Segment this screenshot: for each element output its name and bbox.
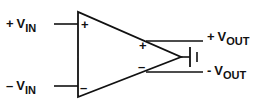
pin-plus-output: + bbox=[139, 38, 147, 53]
label-positive-vin: +VIN bbox=[6, 16, 36, 34]
label-negative-vin: –VIN bbox=[6, 78, 36, 96]
label-positive-vout: +VOUT bbox=[207, 29, 250, 47]
pin-minus-output: – bbox=[138, 59, 145, 74]
pin-plus-input: + bbox=[81, 17, 89, 32]
diagram-canvas: + – + – +VIN –VIN +VOUT -VOUT bbox=[0, 0, 265, 102]
pin-minus-input: – bbox=[80, 80, 87, 95]
capacitor-icon bbox=[190, 47, 197, 67]
op-amp-triangle bbox=[78, 12, 181, 97]
label-negative-vout: -VOUT bbox=[207, 63, 247, 81]
